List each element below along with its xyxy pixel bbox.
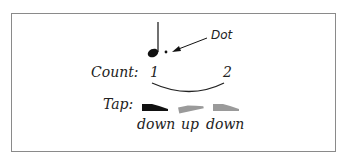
arrow-icon [172, 38, 207, 52]
shoe-up-icon [178, 102, 204, 113]
count-arc [152, 83, 224, 92]
diagram-graphics [0, 0, 353, 159]
tap-1-label: down [137, 116, 175, 132]
count-label: Count: [91, 64, 139, 80]
dot-annotation: Dot [211, 28, 232, 42]
shoe-down-icon-2 [213, 104, 239, 111]
dot-icon [165, 51, 168, 54]
tap-3-label: down [206, 116, 244, 132]
shoe-down-icon [142, 104, 168, 111]
tap-2-label: up [181, 116, 199, 132]
tap-label: Tap: [103, 96, 133, 112]
count-1: 1 [150, 64, 159, 80]
dotted-quarter-note-icon [146, 22, 167, 59]
count-2: 2 [223, 64, 232, 80]
